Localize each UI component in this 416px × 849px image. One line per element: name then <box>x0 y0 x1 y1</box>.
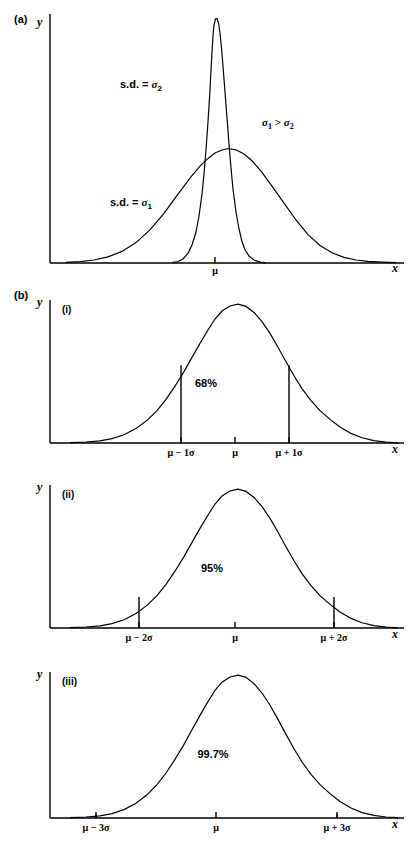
panel-a-x-axis-label: x <box>392 262 398 274</box>
panel-b-iii-roman-tag: (iii) <box>62 677 77 687</box>
panel-a-curve-sigma2 <box>172 19 266 263</box>
panel-a-tick-label-mu: μ <box>212 266 218 276</box>
panel-b-iii-curve <box>70 675 398 817</box>
panel-b-ii-tick-label-plus-2sigma: μ + 2σ <box>321 633 348 643</box>
sd-sigma2-text: s.d. = <box>120 78 152 90</box>
panel-b-ii-y-axis-label: y <box>37 481 42 493</box>
sd-sigma1-label: s.d. = σ1 <box>110 197 152 211</box>
sd-sigma2-label: s.d. = σ2 <box>120 79 162 93</box>
panel-b-iii-tick-label-minus-3sigma: μ − 3σ <box>83 823 110 833</box>
sigma1-subscript: 1 <box>147 202 151 211</box>
sd-sigma1-text: s.d. = <box>110 196 142 208</box>
panel-b-i-tick-label-plus-1sigma: μ + 1σ <box>276 448 303 458</box>
panel-b-ii-curve <box>70 489 398 628</box>
panel-b-ii-tick-label-minus-2sigma: μ − 2σ <box>126 633 153 643</box>
panel-b-ii-area-label: 95% <box>201 563 223 574</box>
ineq-right-sub: 2 <box>290 122 294 131</box>
panel-b-i-x-axis-label: x <box>392 443 398 455</box>
panel-b-i-roman-tag: (i) <box>62 305 71 315</box>
panel-b-iii-area-label: 99.7% <box>197 749 228 760</box>
panel-b-iii-x-axis-label: x <box>392 818 398 830</box>
panel-b-ii-tick-label-mu: μ <box>232 633 238 643</box>
panel-a-y-axis-label: y <box>37 16 42 28</box>
panel-b-ii-roman-tag: (ii) <box>62 490 74 500</box>
ineq-relation: > <box>275 116 281 128</box>
panel-b-iii-tick-label-plus-3sigma: μ + 3σ <box>324 823 351 833</box>
panel-b-i-y-axis-label: y <box>37 296 42 308</box>
normal-distribution-figure: (a) y x s.d. = σ2 s.d. = σ1 σ1 > σ2 μ (b… <box>0 0 416 849</box>
panel-b-i-tick-label-minus-1sigma: μ − 1σ <box>168 448 195 458</box>
figure-canvas <box>0 0 416 849</box>
panel-b-i-tick-label-mu: μ <box>232 448 238 458</box>
panel-b-iii-tick-label-mu: μ <box>213 823 219 833</box>
sigma-inequality-label: σ1 > σ2 <box>262 117 294 131</box>
panel-b-iii-y-axis-label: y <box>37 668 42 680</box>
panel-b-ii-x-axis-label: x <box>392 628 398 640</box>
ineq-left-sub: 1 <box>268 122 272 131</box>
panel-a-tag: (a) <box>14 14 27 25</box>
sigma2-subscript: 2 <box>157 84 161 93</box>
panel-b-i-curve <box>70 304 398 443</box>
panel-b-i-area-label: 68% <box>195 378 217 389</box>
panel-b-tag: (b) <box>14 290 28 301</box>
